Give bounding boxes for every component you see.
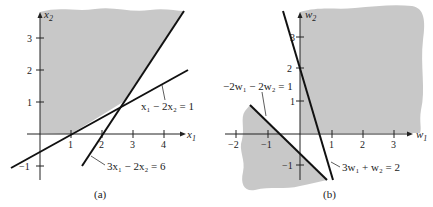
x1-axis-label: x1 <box>186 128 196 143</box>
w1-axis-label: w1 <box>416 128 427 143</box>
svg-text:3: 3 <box>391 139 396 150</box>
svg-text:2: 2 <box>360 139 365 150</box>
x1-ticks: 1 2 3 4 <box>68 130 166 150</box>
panel-a: 1 2 3 4 3 2 1 −1 x1 x2 x₁ − 2x₂ = 1 3x₁ … <box>11 8 196 201</box>
leader-line1-a <box>162 85 165 100</box>
caption-a: (a) <box>94 188 107 201</box>
equation-label-neg2w1-2w2-eq-1: −2w₁ − 2w₂ = 1 <box>223 80 293 92</box>
svg-text:4: 4 <box>161 139 166 150</box>
svg-text:3: 3 <box>130 139 135 150</box>
svg-text:1: 1 <box>329 139 334 150</box>
svg-text:−1: −1 <box>261 139 272 150</box>
feasible-region-b-upper <box>300 5 424 133</box>
svg-text:3: 3 <box>27 33 32 44</box>
svg-text:−1: −1 <box>282 160 293 171</box>
panel-b: −2 −1 1 2 3 3 2 1 −1 w1 w2 −2w₁ − 2w₂ = … <box>223 5 427 201</box>
equation-label-3x1-2x2-eq-6: 3x₁ − 2x₂ = 6 <box>107 160 166 172</box>
leader-line2-b <box>331 162 340 167</box>
svg-text:1: 1 <box>68 139 73 150</box>
svg-text:2: 2 <box>287 63 292 74</box>
svg-text:2: 2 <box>27 65 32 76</box>
caption-b: (b) <box>323 188 336 201</box>
figure: 1 2 3 4 3 2 1 −1 x1 x2 x₁ − 2x₂ = 1 3x₁ … <box>0 0 433 207</box>
svg-text:−2: −2 <box>228 139 239 150</box>
leader-line2-a <box>91 156 105 165</box>
leader-line1-b <box>262 92 266 116</box>
equation-label-3w1-w2-eq-2: 3w₁ + w₂ = 2 <box>342 161 400 173</box>
x1-axis-arrow-icon <box>180 132 186 137</box>
svg-text:1: 1 <box>27 97 32 108</box>
svg-text:1: 1 <box>290 96 295 107</box>
equation-label-x1-2x2-eq-1: x₁ − 2x₂ = 1 <box>141 100 194 112</box>
feasible-region-a <box>40 8 184 134</box>
